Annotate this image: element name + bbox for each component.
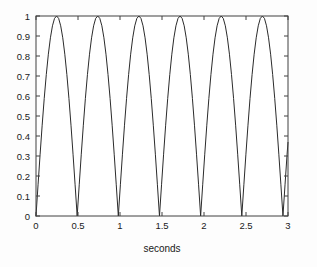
y-tick-label: 1: [25, 11, 30, 22]
y-tick-label: 0.5: [17, 111, 30, 122]
y-tick-label: 0.6: [17, 91, 30, 102]
x-axis-tick-labels: 00.511.522.53: [33, 220, 290, 231]
y-tick-label: 0.9: [17, 31, 30, 42]
y-tick-label: 0: [25, 211, 30, 222]
x-tick-label: 2.5: [239, 220, 252, 231]
plot-svg: 00.511.522.53 00.10.20.30.40.50.60.70.80…: [0, 0, 317, 267]
y-tick-label: 0.2: [17, 171, 30, 182]
x-tick-label: 1.5: [155, 220, 168, 231]
x-tick-label: 0: [33, 220, 38, 231]
axes-background: [36, 16, 288, 216]
y-tick-label: 0.4: [17, 131, 30, 142]
x-tick-label: 3: [285, 220, 290, 231]
x-tick-label: 1: [117, 220, 122, 231]
y-tick-label: 0.8: [17, 51, 30, 62]
figure-canvas: 00.511.522.53 00.10.20.30.40.50.60.70.80…: [0, 0, 317, 267]
y-tick-label: 0.1: [17, 191, 30, 202]
y-tick-label: 0.3: [17, 151, 30, 162]
x-tick-label: 0.5: [71, 220, 84, 231]
x-axis-title: seconds: [143, 243, 180, 254]
y-tick-label: 0.7: [17, 71, 30, 82]
x-tick-label: 2: [201, 220, 206, 231]
